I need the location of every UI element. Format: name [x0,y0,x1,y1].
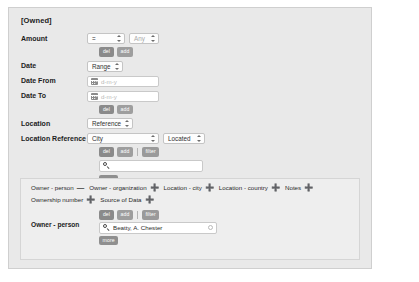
chip-owner-organization-label: Owner - organization [89,184,146,191]
location-relation-value: Located [168,135,190,142]
search-icon [103,224,110,231]
date-fields: Range [87,61,123,72]
chip-ownership-number[interactable]: Ownership number ➕ [31,196,95,204]
plus-icon[interactable]: ➕ [205,184,214,192]
owner-more-row: more [99,236,217,246]
calendar-icon [91,78,98,85]
plus-icon[interactable]: ➕ [304,184,313,192]
chevron-down-icon [117,40,121,42]
chip-ownership-number-label: Ownership number [31,196,83,203]
chip-source-of-data-label: Source of Data [100,196,141,203]
row-location: Location Reference [9,117,371,130]
row-date-to: Date To d-m-y [9,90,371,103]
date-button-row: del add [9,105,371,115]
date-to-input[interactable]: d-m-y [87,91,159,102]
location-reference-fields: City Located [87,133,205,144]
owner-person-block: Owner - person del add filter Beatty, A.… [21,210,359,245]
date-del-button[interactable]: del [99,105,114,115]
owner-more-button[interactable]: more [99,236,118,246]
calendar-icon [91,93,98,100]
amount-fields: = Any [87,33,159,44]
location-del-button[interactable]: del [99,147,114,157]
date-to-placeholder: d-m-y [101,93,117,100]
chip-location-country[interactable]: Location - country ➕ [219,184,280,192]
date-from-fields: d-m-y [87,76,159,87]
location-fields: Reference [87,118,133,129]
date-mode-select[interactable]: Range [87,61,123,72]
clear-icon[interactable] [208,225,214,231]
chip-source-of-data[interactable]: Source of Data ➕ [100,196,153,204]
chip-owner-person[interactable]: Owner - person — [31,184,84,192]
button-separator [137,148,138,156]
location-add-button[interactable]: add [117,147,133,157]
plus-icon[interactable]: ➕ [145,196,154,204]
chevron-down-icon [115,68,119,70]
amount-operator-select[interactable]: = [87,33,125,44]
location-search-input[interactable] [99,160,203,172]
chevron-down-icon [197,140,201,142]
criteria-form: [Owned] Amount = Any del add [9,8,371,187]
row-label-location: Location [9,119,87,129]
date-from-placeholder: d-m-y [101,78,117,85]
owner-button-row: del add filter [99,210,217,220]
field-chooser-panel: Owner - person — Owner - organization ➕ … [20,178,360,260]
chip-notes-label: Notes [285,184,301,191]
location-filter-button[interactable]: filter [142,147,159,157]
owner-del-button[interactable]: del [99,210,114,220]
date-from-input[interactable]: d-m-y [87,76,159,87]
row-label-date-to: Date To [9,91,87,101]
date-to-fields: d-m-y [87,91,159,102]
amount-value-select[interactable]: Any [129,33,159,44]
chevron-down-icon [151,140,155,142]
chip-row-2: Ownership number ➕ Source of Data ➕ [21,196,359,204]
date-mode-value: Range [92,63,111,70]
chip-notes[interactable]: Notes ➕ [285,184,313,192]
amount-value-placeholder: Any [134,35,145,42]
location-button-row: del add filter [9,147,371,157]
amount-add-button[interactable]: add [117,47,133,57]
button-separator [137,211,138,219]
chip-owner-organization[interactable]: Owner - organization ➕ [89,184,158,192]
owner-filter-button[interactable]: filter [142,210,159,220]
search-builder-screen: [Owned] Amount = Any del add [0,0,419,282]
chevron-down-icon [151,40,155,42]
minus-icon[interactable]: — [77,184,85,192]
location-search-row [9,160,371,172]
chip-location-city[interactable]: Location - city ➕ [164,184,214,192]
plus-icon[interactable]: ➕ [150,184,159,192]
row-location-reference: Location Reference City Located [9,132,371,145]
location-mode-value: Reference [92,120,121,127]
row-amount: Amount = Any [9,32,371,45]
date-add-button[interactable]: add [117,105,133,115]
plus-icon[interactable]: ➕ [271,184,280,192]
owner-add-button[interactable]: add [117,210,133,220]
row-date: Date Range [9,60,371,73]
row-label-date: Date [9,61,87,71]
location-relation-select[interactable]: Located [163,133,205,144]
location-mode-select[interactable]: Reference [87,118,133,129]
row-label-date-from: Date From [9,76,87,86]
row-label-location-reference: Location Reference [9,134,87,144]
owner-person-label: Owner - person [31,210,99,228]
amount-del-button[interactable]: del [99,47,114,57]
chip-location-country-label: Location - country [219,184,268,191]
location-type-select[interactable]: City [87,133,159,144]
search-icon [103,162,110,169]
chip-owner-person-label: Owner - person [31,184,74,191]
row-label-amount: Amount [9,34,87,44]
location-type-value: City [92,135,103,142]
amount-operator-value: = [92,35,96,42]
amount-button-row: del add [9,47,371,57]
owner-person-fields: del add filter Beatty, A. Chester more [99,210,217,245]
chip-location-city-label: Location - city [164,184,202,191]
plus-icon[interactable]: ➕ [86,196,95,204]
group-title: [Owned] [21,16,371,25]
chevron-down-icon [125,125,129,127]
owner-search-input[interactable]: Beatty, A. Chester [99,222,217,234]
owner-search-value: Beatty, A. Chester [113,224,205,231]
row-date-from: Date From d-m-y [9,75,371,88]
chip-row-1: Owner - person — Owner - organization ➕ … [21,184,359,192]
